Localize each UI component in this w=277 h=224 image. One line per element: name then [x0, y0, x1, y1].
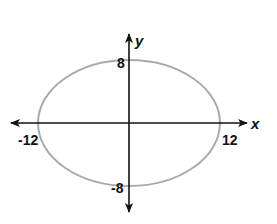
y-axis-label: y [134, 32, 144, 49]
x-axis-label: x [250, 115, 260, 132]
label-top-intercept: 8 [117, 55, 125, 71]
label-right-intercept: 12 [222, 132, 238, 148]
label-left-intercept: -12 [18, 132, 38, 148]
ellipse-diagram: y x 8 -8 -12 12 [0, 0, 277, 224]
label-bottom-intercept: -8 [111, 180, 124, 196]
